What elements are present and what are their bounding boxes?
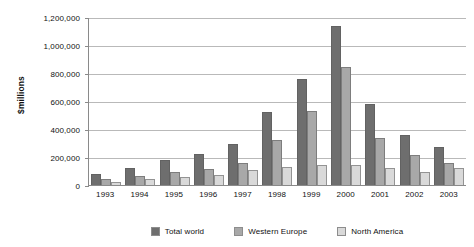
y-axis-tick-label: 1,200,000 (44, 14, 81, 23)
bar (238, 163, 248, 185)
x-axis-tick-label: 2001 (371, 190, 389, 199)
x-axis-tick-label: 1994 (130, 190, 148, 199)
legend-item[interactable]: North America (337, 227, 403, 236)
bar-group (434, 18, 464, 185)
bar (145, 179, 155, 185)
bar-group (194, 18, 224, 185)
bar-group (400, 18, 430, 185)
bar (160, 160, 170, 185)
bar (204, 169, 214, 185)
bar (351, 165, 361, 185)
bar (420, 172, 430, 185)
bar-group (331, 18, 361, 185)
bar-group (365, 18, 395, 185)
bar-group (91, 18, 121, 185)
bar (307, 111, 317, 185)
x-axis-tick-label: 2000 (337, 190, 355, 199)
x-axis-tick-label: 2003 (440, 190, 458, 199)
legend-label: Total world (165, 227, 204, 236)
bar (410, 155, 420, 185)
bar (180, 177, 190, 185)
bar (228, 144, 238, 185)
y-axis-tick-label: 600,000 (50, 98, 80, 107)
bar (91, 174, 101, 185)
y-axis-title-label: $millions (16, 76, 26, 114)
legend-label: Western Europe (248, 227, 307, 236)
x-axis-tick-label: 1996 (199, 190, 217, 199)
y-axis-tick-label: 800,000 (50, 70, 80, 79)
x-axis-tick-labels: 1993199419951996199719981999200020012002… (88, 190, 466, 206)
bar-group (297, 18, 327, 185)
bar (365, 104, 375, 185)
bar-group (262, 18, 292, 185)
chart-legend: Total worldWestern EuropeNorth America (88, 224, 466, 238)
legend-swatch-icon (234, 227, 243, 236)
bar (385, 168, 395, 186)
bar (111, 182, 121, 186)
legend-swatch-icon (337, 227, 346, 236)
bar (341, 67, 351, 185)
x-axis-tick-label: 1993 (96, 190, 114, 199)
bar (125, 168, 135, 186)
legend-label: North America (351, 227, 403, 236)
y-axis-tick-label: 400,000 (50, 126, 80, 135)
bar-group (228, 18, 258, 185)
plot-area (88, 18, 466, 186)
bar (272, 140, 282, 185)
bar (135, 176, 145, 185)
legend-item[interactable]: Total world (151, 227, 204, 236)
bar (248, 170, 258, 185)
bar (375, 138, 385, 185)
x-axis-tick-label: 2002 (405, 190, 423, 199)
y-axis-tick-label: 200,000 (50, 154, 80, 163)
y-axis-tick-label: 0 (75, 182, 80, 191)
y-axis-tick-labels: 0200,000400,000600,000800,0001,000,0001,… (28, 18, 84, 186)
bar (262, 112, 272, 185)
bar-chart: $millions 0200,000400,000600,000800,0001… (0, 0, 474, 247)
x-axis-tick-label: 1995 (165, 190, 183, 199)
y-axis-tick (85, 186, 89, 187)
bar (434, 147, 444, 186)
bar (194, 154, 204, 185)
legend-swatch-icon (151, 227, 160, 236)
bar (214, 175, 224, 186)
bar (444, 163, 454, 185)
bars-layer (89, 18, 466, 185)
bar (297, 79, 307, 185)
y-axis-title: $millions (14, 0, 28, 190)
y-axis-tick-label: 1,000,000 (44, 42, 81, 51)
bar (170, 172, 180, 185)
x-axis-tick-label: 1999 (302, 190, 320, 199)
bar (454, 168, 464, 185)
x-axis-tick-label: 1997 (234, 190, 252, 199)
bar (400, 135, 410, 185)
bar (331, 26, 341, 185)
bar (282, 167, 292, 185)
x-axis-tick-label: 1998 (268, 190, 286, 199)
bar-group (160, 18, 190, 185)
legend-item[interactable]: Western Europe (234, 227, 307, 236)
bar (317, 165, 327, 185)
bar (101, 179, 111, 185)
bar-group (125, 18, 155, 185)
